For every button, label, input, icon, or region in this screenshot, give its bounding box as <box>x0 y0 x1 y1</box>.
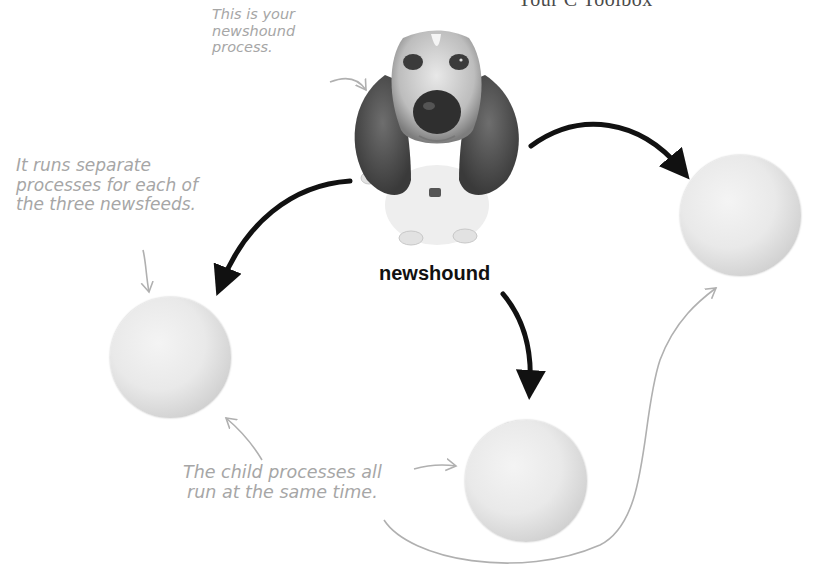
annotation-arrow-right-circle <box>384 288 716 563</box>
annotation-arrow-children <box>143 250 149 292</box>
arrows-layer <box>0 0 815 580</box>
fork-arrow-right <box>531 124 680 168</box>
annotation-arrow-parent <box>330 79 366 90</box>
annotation-arrow-bottom-circle <box>414 465 456 469</box>
fork-arrow-bottom <box>503 294 530 385</box>
fork-arrow-left <box>222 181 350 282</box>
annotation-arrow-left-circle <box>226 418 262 460</box>
